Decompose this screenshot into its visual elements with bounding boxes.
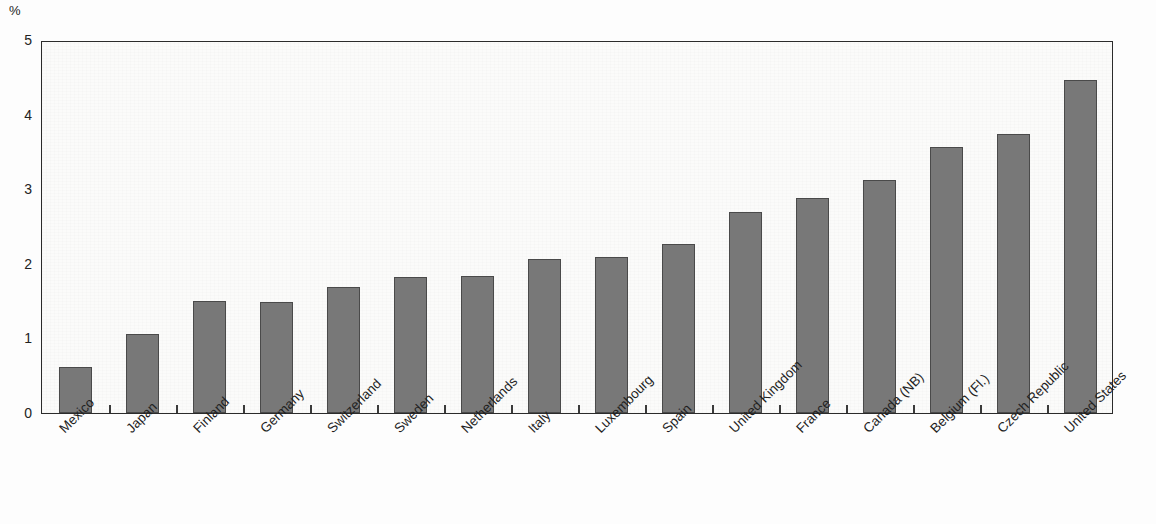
- x-axis-tick-mark: [243, 405, 245, 413]
- bar: [126, 334, 159, 413]
- y-axis-unit-label: %: [9, 4, 21, 17]
- bar: [528, 259, 561, 413]
- y-axis-tick-label: 4: [24, 108, 32, 122]
- y-axis-tick-label: 0: [24, 406, 32, 420]
- bar: [461, 276, 494, 413]
- y-axis-tick-label: 2: [24, 257, 32, 271]
- bar: [1064, 80, 1097, 413]
- x-axis-tick-mark: [913, 405, 915, 413]
- bar: [662, 244, 695, 413]
- x-axis-tick-mark: [377, 405, 379, 413]
- y-axis-tick-label: 3: [24, 182, 32, 196]
- chart-figure: % 012345 MexicoJapanFinlandGermanySwitze…: [0, 0, 1156, 524]
- x-axis-tick-mark: [846, 405, 848, 413]
- x-axis-tick-mark: [444, 405, 446, 413]
- x-axis-tick-mark: [712, 405, 714, 413]
- bar: [595, 257, 628, 413]
- bar: [796, 198, 829, 413]
- x-axis-tick-mark: [176, 405, 178, 413]
- bar: [997, 134, 1030, 413]
- bar: [863, 180, 896, 413]
- x-axis-tick-mark: [578, 405, 580, 413]
- x-axis-tick-mark: [645, 405, 647, 413]
- y-axis-tick-label: 1: [24, 331, 32, 345]
- x-axis-tick-mark: [109, 405, 111, 413]
- bar: [930, 147, 963, 413]
- x-axis-tick-mark: [980, 405, 982, 413]
- x-axis-tick-mark: [310, 405, 312, 413]
- bar: [729, 212, 762, 413]
- plot-area: [41, 41, 1113, 414]
- x-axis-tick-mark: [511, 405, 513, 413]
- y-axis-tick-label: 5: [24, 33, 32, 47]
- x-axis-tick-mark: [1047, 405, 1049, 413]
- x-axis-tick-mark: [779, 405, 781, 413]
